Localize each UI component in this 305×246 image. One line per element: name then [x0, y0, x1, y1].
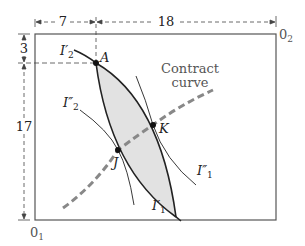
contract-curve-label-line1: Contract — [161, 61, 220, 76]
dim-label-7: 7 — [59, 14, 67, 29]
label-K: K — [158, 121, 170, 136]
edgeworth-box-diagram: 7 18 3 17 A K J I′2 I″2 I′1 — [0, 0, 305, 246]
dim-label-3: 3 — [20, 41, 28, 56]
point-A — [93, 60, 99, 66]
label-I2-prime: I′2 — [59, 43, 74, 60]
contract-curve-label-line2: curve — [172, 75, 209, 90]
point-K — [150, 122, 156, 128]
mutual-gain-lens — [96, 63, 176, 217]
label-A: A — [99, 50, 109, 65]
point-J — [115, 147, 121, 153]
origin-consumer-1: 01 — [30, 225, 44, 242]
origin-consumer-2: 02 — [279, 27, 293, 44]
dim-label-18: 18 — [158, 14, 175, 29]
label-I2-double-prime: I″2 — [62, 95, 79, 112]
label-I1-double-prime: I″1 — [196, 163, 213, 180]
dim-label-17: 17 — [16, 119, 33, 134]
